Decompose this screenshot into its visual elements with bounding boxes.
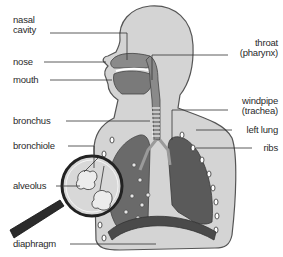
mouth-shape <box>113 71 152 94</box>
label-diaphragm: diaphragm <box>13 239 56 249</box>
label-throat: throat (pharynx) <box>240 38 278 58</box>
label-ribs: ribs <box>263 143 278 153</box>
label-nasal-cavity-line2: cavity <box>13 25 36 35</box>
label-throat-line2: (pharynx) <box>240 48 278 58</box>
label-nasal-cavity: nasal cavity <box>13 15 36 35</box>
label-bronchus: bronchus <box>13 116 50 126</box>
label-left-lung: left lung <box>247 125 278 135</box>
label-mouth: mouth <box>13 75 38 85</box>
alveolus-shape-1 <box>76 170 97 189</box>
label-bronchiole: bronchiole <box>13 141 55 151</box>
alveolus-shape-2 <box>92 190 112 210</box>
label-windpipe-line2: (trachea) <box>242 106 278 116</box>
respiratory-diagram: nasal cavity nose mouth bronchus bronchi… <box>0 0 283 257</box>
label-windpipe: windpipe (trachea) <box>242 96 278 116</box>
magnifier-handle <box>10 200 64 238</box>
label-nose: nose <box>13 57 33 67</box>
label-alveolus: alveolus <box>13 181 46 191</box>
